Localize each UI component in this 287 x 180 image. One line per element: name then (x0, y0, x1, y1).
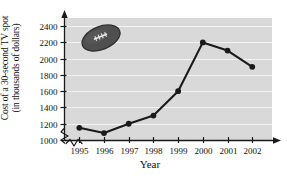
x-tick-label: 1995 (71, 146, 90, 156)
x-tick-label: 1999 (170, 146, 189, 156)
x-tick-label: 1998 (145, 146, 164, 156)
y-axis-ticks: 10001200140016001800200022002400 (40, 22, 67, 146)
data-point (225, 48, 231, 54)
chart-figure: 10001200140016001800200022002400 1995199… (0, 0, 287, 180)
data-point (101, 130, 107, 136)
data-point (76, 125, 82, 131)
x-tick-label: 2002 (244, 146, 262, 156)
data-point (151, 113, 157, 119)
x-tick-label: 1996 (96, 146, 115, 156)
data-point (249, 64, 255, 70)
x-tick-label: 1997 (121, 146, 140, 156)
x-axis-label: Year (90, 158, 210, 170)
y-tick-label: 2000 (40, 55, 59, 65)
y-tick-label: 2400 (40, 22, 59, 32)
y-tick-label: 1800 (40, 71, 59, 81)
y-tick-label: 1600 (40, 87, 59, 97)
x-tick-label: 2000 (195, 146, 214, 156)
y-tick-label: 1200 (40, 120, 59, 130)
line-chart-canvas: 10001200140016001800200022002400 1995199… (0, 0, 287, 180)
data-point (200, 40, 206, 46)
y-tick-label: 1000 (40, 136, 59, 146)
y-tick-label: 1400 (40, 103, 59, 113)
y-tick-label: 2200 (40, 38, 59, 48)
x-tick-label: 2001 (220, 146, 238, 156)
data-point (126, 121, 132, 127)
data-point (175, 88, 181, 94)
